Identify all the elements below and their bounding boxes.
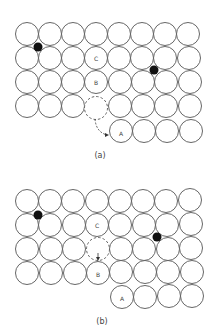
lattice-row-5 bbox=[110, 120, 203, 143]
lattice-row-2 bbox=[16, 213, 203, 237]
panel-b: C B A (b) bbox=[16, 189, 204, 327]
jump-arrow bbox=[95, 119, 107, 135]
interstitial-atom bbox=[150, 66, 159, 75]
lattice-row-4 bbox=[16, 261, 204, 285]
label-b: B bbox=[94, 79, 98, 86]
lattice-row-4 bbox=[16, 95, 202, 120]
lattice-row-3 bbox=[16, 71, 202, 94]
diagram: C B A (a) bbox=[0, 0, 216, 334]
interstitial-atom bbox=[34, 43, 43, 52]
panel-a: C B A (a) bbox=[16, 23, 203, 161]
interstitial-atom bbox=[34, 211, 43, 220]
label-c: C bbox=[95, 222, 99, 229]
interstitial-atom bbox=[153, 233, 162, 242]
caption-b: (b) bbox=[96, 317, 107, 326]
lattice-row-5 bbox=[111, 285, 204, 309]
label-c: C bbox=[94, 55, 98, 62]
lattice-row-2 bbox=[16, 47, 201, 70]
caption-a: (a) bbox=[94, 151, 105, 160]
lattice-row-3 bbox=[16, 237, 203, 261]
vacancy bbox=[85, 97, 108, 120]
lattice-row-1 bbox=[16, 23, 200, 46]
lattice-row-1 bbox=[16, 189, 202, 213]
label-b: B bbox=[96, 271, 100, 278]
